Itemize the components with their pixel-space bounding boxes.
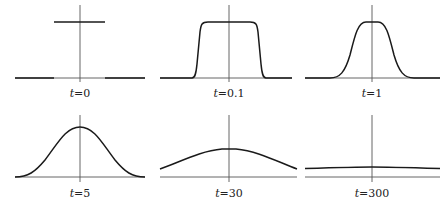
curve [160,22,292,78]
time-label: t=5 [70,187,91,200]
panel-t300: t=300 [305,115,440,200]
panel-t1: t=1 [305,5,440,100]
time-label: t=0.1 [213,87,244,100]
curve [305,22,440,78]
curve [305,167,440,169]
panel-t0: t=0 [15,5,145,100]
time-label: t=30 [215,187,243,200]
curve [160,149,297,169]
panel-t01: t=0.1 [160,5,292,100]
panel-t5: t=5 [15,115,145,200]
time-label: t=0 [70,87,91,100]
time-label: t=300 [355,187,390,200]
panel-t30: t=30 [160,115,297,200]
time-label: t=1 [362,87,383,100]
diffusion-figure: t=0 t=0.1 t=1 t=5 t=30 t=300 [0,0,445,216]
